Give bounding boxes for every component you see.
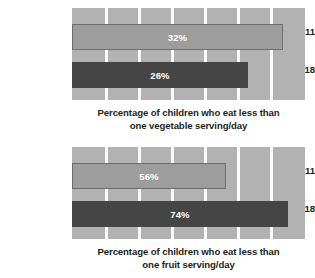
bar-value-label-ages-6-11: 32% <box>168 32 187 43</box>
bar-value-label-ages-12-18: 26% <box>150 70 169 81</box>
bar-value-label-ages-12-18: 74% <box>170 209 189 220</box>
caption-line-2: one vegetable serving/day <box>72 119 305 132</box>
chart-caption: Percentage of children who eat less than… <box>72 106 305 132</box>
gridline <box>270 8 273 100</box>
chart-vegetable-servings: Ages 6–11 Ages 12–18 32% 26% Percentage … <box>0 0 315 139</box>
chart-fruit-servings: Ages 6–11 Ages 12–18 56% 74% Percentage … <box>0 139 315 278</box>
caption-line-1: Percentage of children who eat less than <box>72 106 305 119</box>
chart-caption: Percentage of children who eat less than… <box>72 245 305 271</box>
plot-area: 32% 26% <box>72 8 305 100</box>
plot-area: 56% 74% <box>72 147 305 239</box>
bar-value-label-ages-6-11: 56% <box>139 171 158 182</box>
caption-line-1: Percentage of children who eat less than <box>72 245 305 258</box>
caption-line-2: one fruit serving/day <box>72 258 305 271</box>
